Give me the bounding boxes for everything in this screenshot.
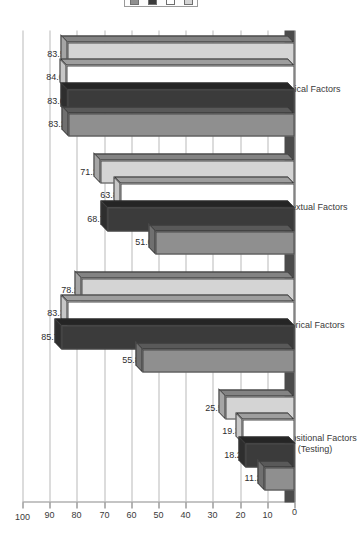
bar-top (257, 459, 264, 490)
axis-tick-label: 30 (207, 511, 217, 520)
legend-swatch-4 (184, 0, 193, 5)
axis-tick (212, 502, 213, 508)
bar-front (264, 467, 294, 491)
axis-tick (76, 502, 77, 508)
bar[interactable] (155, 231, 294, 255)
axis-tick (49, 502, 50, 508)
bar-group (22, 160, 294, 254)
axis-tick-label: 80 (71, 511, 81, 520)
bar[interactable] (264, 467, 294, 491)
bar-top (218, 389, 225, 420)
chart-legend (124, 0, 198, 7)
axis-tick (131, 502, 132, 508)
bar-side (60, 82, 294, 89)
bar-front (68, 113, 294, 137)
bar-top (61, 105, 68, 136)
bar[interactable] (142, 349, 294, 373)
bar-side (149, 224, 294, 231)
bar-side (61, 294, 294, 301)
legend-swatch-1 (130, 0, 139, 5)
axis-tick (240, 502, 241, 508)
bar[interactable] (68, 113, 294, 137)
bar-side (94, 153, 294, 160)
bar-front (155, 231, 294, 255)
bar-side (61, 106, 294, 113)
axis-tick (104, 502, 105, 508)
bar-side (54, 318, 294, 325)
axis-tick-label: 50 (153, 511, 163, 520)
bar-side (59, 58, 294, 65)
bar-side (114, 176, 294, 183)
axis-tick-label: 60 (126, 511, 136, 520)
axis-tick-label: 40 (180, 511, 190, 520)
plot-area: 0102030405060708090100 Dispositional Fac… (22, 30, 294, 502)
bar-side (238, 436, 294, 443)
depth-top-face (12, 30, 22, 502)
bar-side (60, 35, 294, 42)
axis-tick-label: 70 (99, 511, 109, 520)
axis-tick (267, 502, 268, 508)
bar-side (100, 200, 294, 207)
bar-side (218, 389, 294, 396)
bar-side (235, 412, 294, 419)
axis-tick-label: 10 (262, 511, 272, 520)
bar-front (142, 349, 294, 373)
axis-tick (185, 502, 186, 508)
axis-tick (22, 502, 23, 508)
bar-side (75, 271, 294, 278)
legend-swatch-3 (166, 0, 175, 5)
axis-tick-label: 100 (14, 513, 29, 522)
bar-group (22, 42, 294, 136)
axis-tick-label: 90 (44, 511, 54, 520)
bar-side (135, 342, 294, 349)
axis-tick (158, 502, 159, 508)
legend-swatch-2 (148, 0, 157, 5)
axis-tick-label: 20 (235, 511, 245, 520)
axis-tick-label: 0 (291, 508, 296, 517)
